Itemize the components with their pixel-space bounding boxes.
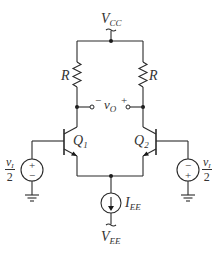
resistor-left xyxy=(73,41,81,107)
resistor-left-label: R xyxy=(61,69,70,83)
current-source-iee xyxy=(101,176,121,226)
source-left-bottom-sign: − xyxy=(29,170,35,181)
ground-icon-left xyxy=(25,195,39,201)
vee-label: VEE xyxy=(101,230,121,244)
output-plus-sign: + xyxy=(121,95,127,106)
source-right-bottom-sign: + xyxy=(185,170,191,181)
output-label: vO xyxy=(104,98,116,111)
q1-label: Q1 xyxy=(73,134,88,148)
input-source-right xyxy=(156,141,199,201)
source-right-label: vI 2 xyxy=(202,156,212,183)
resistor-right xyxy=(139,41,147,107)
circuit-diagram xyxy=(0,0,224,254)
q2-label: Q2 xyxy=(134,134,149,148)
vcc-node-dot xyxy=(109,39,113,43)
output-terminal-minus xyxy=(90,105,94,109)
ground-icon-right xyxy=(181,195,195,201)
output-minus-sign: − xyxy=(95,95,101,106)
input-source-left xyxy=(21,141,64,201)
vcc-label: VCC xyxy=(101,12,122,26)
source-left-label: vI 2 xyxy=(5,156,15,183)
resistor-right-label: R xyxy=(149,69,158,83)
iee-label: IEE xyxy=(125,196,141,210)
